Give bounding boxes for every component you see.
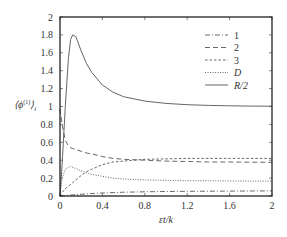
legend: 123DR/2 [205,30,248,91]
legend-label: 1 [234,30,239,41]
y-tick-label: 1.2 [41,83,54,94]
x-tick-label: 1.6 [223,200,236,211]
series-1 [60,191,272,196]
y-tick-label: 0.6 [41,137,54,148]
y-axis-label: ⟨ϕ(1)⟩i [14,99,36,113]
y-tick-label: 1 [48,101,53,112]
series-2 [60,109,272,162]
x-tick-label: 2 [270,200,275,211]
y-tick-label: 1.4 [41,65,54,76]
y-tick-label: 2 [48,12,53,23]
series-3 [60,158,272,196]
y-tick-label: 0.8 [41,119,54,130]
line-chart: 00.40.81.21.62 00.20.40.60.811.21.41.61.… [0,0,287,237]
x-tick-label: 1.2 [181,200,194,211]
x-tick-label: 0.8 [139,200,152,211]
x-axis-label: εt/k [159,214,173,225]
y-tick-label: 1.8 [41,29,54,40]
legend-label: R/2 [233,80,248,91]
y-tick-label: 1.6 [41,47,54,58]
y-tick-label: 0.2 [41,173,54,184]
legend-label: D [233,67,242,78]
legend-label: 3 [234,55,239,66]
series-r-2 [60,35,272,196]
x-axis-ticks: 00.40.81.21.62 [58,17,275,211]
series-d [60,167,272,197]
legend-label: 2 [234,42,239,53]
y-tick-label: 0 [48,191,53,202]
x-tick-label: 0.4 [96,200,109,211]
data-series [60,35,272,196]
x-tick-label: 0 [58,200,63,211]
y-tick-label: 0.4 [41,155,54,166]
